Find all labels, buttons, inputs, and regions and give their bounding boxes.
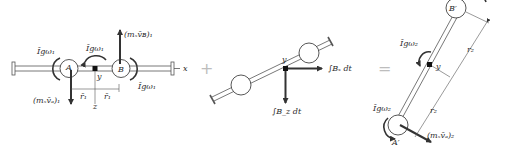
moment-arc-b-prime — [463, 0, 486, 2]
momentum-b-label: (mₛv̄ʙ)₁ — [124, 30, 153, 39]
momentum-a-label: (mₛv̄ₐ)₁ — [33, 96, 60, 105]
center-point — [283, 66, 288, 71]
moment-arc-b — [130, 58, 137, 80]
r-right-label: r̄₁ — [104, 92, 111, 101]
equals-operator: = — [378, 59, 391, 78]
center-label: y — [281, 55, 287, 64]
moment-center-label: Īgω₂ — [399, 39, 418, 48]
point-b-prime-label: B′ — [448, 4, 457, 13]
center-point — [93, 66, 98, 71]
center-point — [427, 62, 432, 67]
sphere-a — [231, 75, 251, 95]
panel-initial-momentum: x A B y Īgω₁ Īgω₁ Īgω₁ (mₛv̄ₐ)₁ (mₛv̄ʙ)₁… — [12, 30, 188, 111]
center-label: y — [96, 72, 102, 81]
impulse-momentum-diagram: x A B y Īgω₁ Īgω₁ Īgω₁ (mₛv̄ₐ)₁ (mₛv̄ʙ)₁… — [0, 0, 518, 155]
point-b-label: B — [117, 65, 124, 74]
moment-a-prime-label: Īgω₂ — [372, 104, 391, 113]
plus-operator: + — [200, 59, 213, 78]
impulse-x-label: ∫Bₓ dt — [328, 64, 353, 73]
r-lower-label: r₂ — [430, 106, 437, 115]
sphere-a-prime — [388, 115, 408, 135]
r-left-label: r̄₁ — [80, 92, 87, 101]
panel-impulse: y ∫Bₓ dt ∫B_z dt — [210, 37, 353, 116]
moment-arc-center — [85, 56, 106, 62]
r-upper-label: r₂ — [467, 45, 474, 54]
moment-center-label: Īgω₁ — [85, 44, 104, 53]
moment-arc-a — [53, 58, 60, 80]
moment-a-label: Īgω₁ — [36, 47, 55, 56]
x-axis-label: x — [183, 64, 188, 73]
dimension-line — [415, 22, 487, 137]
impulse-z-label: ∫B_z dt — [272, 107, 302, 116]
z-axis-label: z — [92, 102, 98, 111]
momentum-a-prime-label: (mₛv̄ₐ)₂ — [427, 131, 454, 140]
sphere-b — [299, 43, 319, 63]
moment-b-label: Īgω₁ — [137, 82, 156, 91]
